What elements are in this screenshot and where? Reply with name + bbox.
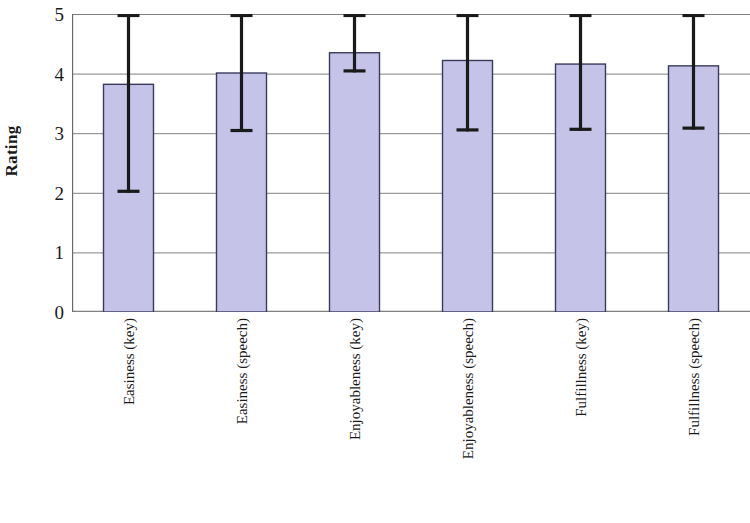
x-tick-label-slot: Enjoyableness (key) [340,312,370,512]
bar-group [330,14,380,312]
y-tick-label: 2 [12,183,64,202]
x-tick-label: Fulfillness (speech) [686,318,701,436]
bar [330,53,380,312]
x-tick-label: Enjoyableness (key) [347,318,362,440]
x-tick-label-slot: Easiness (key) [114,312,144,512]
x-tick-label: Easiness (speech) [234,318,249,424]
y-tick-label: 0 [12,303,64,322]
x-tick-label: Fulfillness (key) [573,318,588,417]
x-tick-label-slot: Easiness (speech) [227,312,257,512]
x-tick-label-slot: Enjoyableness (speech) [453,312,483,512]
x-tick-label-slot: Fulfillness (speech) [679,312,709,512]
x-tick-label: Enjoyableness (speech) [460,318,475,459]
plot-area [72,14,750,312]
y-tick-label: 3 [12,124,64,143]
x-axis-tick-labels: Easiness (key)Easiness (speech)Enjoyable… [72,312,750,518]
bars-and-error-bars [72,14,750,312]
bar-group [217,14,267,312]
y-tick-label: 4 [12,64,64,83]
bar-group [669,14,719,312]
bar-group [104,14,154,312]
x-tick-label-slot: Fulfillness (key) [566,312,596,512]
y-tick-label: 5 [12,5,64,24]
bar-group [556,14,606,312]
y-axis-tick-labels: 543210 [0,14,64,312]
bar-chart: Rating 543210 Easiness (key)Easiness (sp… [0,0,750,523]
bar-group [443,14,493,312]
x-tick-label: Easiness (key) [121,318,136,405]
y-tick-label: 1 [12,243,64,262]
